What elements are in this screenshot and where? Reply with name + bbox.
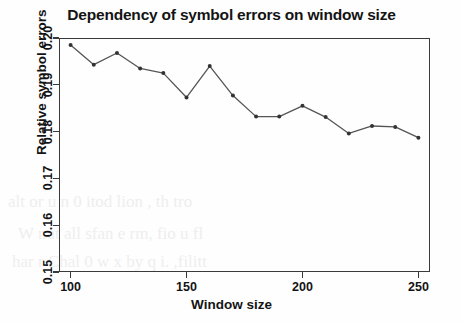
data-point: [416, 136, 420, 140]
data-series-symbol-errors: [59, 38, 430, 272]
data-point: [185, 95, 189, 99]
x-axis-title: Window size: [0, 297, 463, 312]
data-point: [92, 63, 96, 67]
chart-title: Dependency of symbol errors on window si…: [0, 6, 463, 24]
data-point: [393, 125, 397, 129]
x-axis-tick: [418, 272, 419, 278]
y-axis-title: Relative symbol errors: [34, 9, 49, 155]
x-axis-tick: [70, 272, 71, 278]
chart-page: alt or u n 0 itod lion , th tro W nut al…: [0, 0, 463, 322]
x-axis-tick-label: 100: [60, 280, 81, 294]
data-point: [115, 51, 119, 55]
data-point: [277, 115, 281, 119]
x-axis-tick: [186, 272, 187, 278]
y-axis-line: [59, 38, 60, 272]
data-point: [161, 71, 165, 75]
data-point: [300, 104, 304, 108]
data-point: [347, 131, 351, 135]
x-axis-tick-label: 250: [408, 280, 429, 294]
data-point: [231, 94, 235, 98]
data-point: [370, 124, 374, 128]
x-axis-tick-label: 200: [292, 280, 313, 294]
data-point: [254, 115, 258, 119]
series-markers: [69, 43, 421, 140]
data-point: [69, 43, 73, 47]
data-point: [138, 66, 142, 70]
x-axis-tick: [302, 272, 303, 278]
x-axis-line: [59, 271, 430, 272]
series-line: [71, 45, 419, 138]
x-axis-tick-label: 150: [176, 280, 197, 294]
data-point: [208, 64, 212, 68]
data-point: [324, 115, 328, 119]
